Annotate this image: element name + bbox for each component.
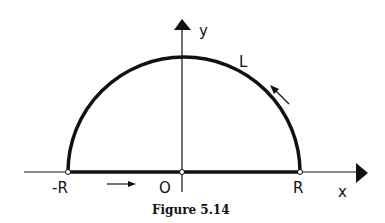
point-minus-R <box>66 170 71 175</box>
contour-diagram: y x L -R O R Figure 5.14 <box>0 0 385 223</box>
y-axis-label: y <box>199 22 208 40</box>
figure-caption: Figure 5.14 <box>152 203 230 217</box>
label-R: R <box>293 179 303 197</box>
curve-label-L: L <box>239 53 248 71</box>
semicircle-arc-L <box>68 57 300 172</box>
label-origin: O <box>159 179 171 197</box>
rightward-arrow-icon <box>107 181 136 187</box>
x-axis-label: x <box>338 183 347 201</box>
point-origin <box>180 170 185 175</box>
point-R <box>298 170 303 175</box>
label-minus-R: -R <box>52 179 68 197</box>
counterclockwise-arrow-icon <box>270 85 289 104</box>
y-axis-arrowhead-icon <box>174 19 191 30</box>
x-axis-arrowhead-icon <box>356 163 368 183</box>
